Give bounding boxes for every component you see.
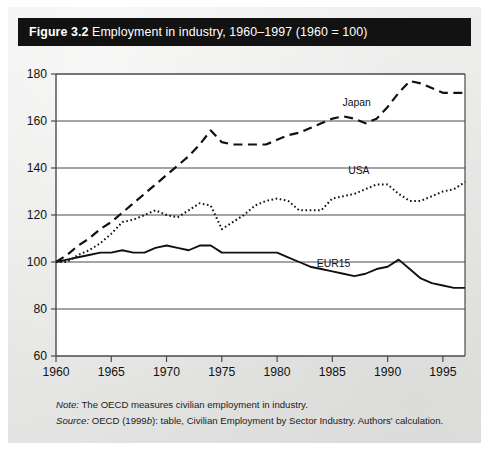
note-row: Note: The OECD measures civilian employm… <box>56 397 471 413</box>
chart-container: 6080100120140160180 19601965197019751980… <box>0 52 489 382</box>
figure-title-line: Figure 3.2 Employment in industry, 1960–… <box>18 25 368 39</box>
x-tick-label: 1970 <box>153 365 180 379</box>
source-text-post: ): table, Civilian Employment by Sector … <box>152 415 443 426</box>
x-tick-label: 1960 <box>42 365 69 379</box>
x-tick-label: 1965 <box>98 365 125 379</box>
series-label-eur15: EUR15 <box>317 258 351 269</box>
x-tick-label: 1995 <box>429 365 456 379</box>
y-tick-label: 100 <box>27 255 48 269</box>
y-tick-label: 60 <box>33 349 47 363</box>
figure-caption: Employment in industry, 1960–1997 (1960 … <box>92 25 367 39</box>
y-tick-label: 80 <box>33 302 47 316</box>
x-tick-label: 1975 <box>208 365 235 379</box>
page-margin-bottom <box>0 443 489 464</box>
y-tick-label: 180 <box>27 67 48 81</box>
figure-title-bar: Figure 3.2 Employment in industry, 1960–… <box>18 18 471 46</box>
figure-notes: Note: The OECD measures civilian employm… <box>56 397 471 429</box>
y-tick-label: 120 <box>27 208 48 222</box>
series-label-japan: Japan <box>343 97 372 108</box>
y-tick-label: 160 <box>27 114 48 128</box>
series-label-usa: USA <box>348 165 369 176</box>
notes-divider <box>18 388 471 389</box>
page-margin-right <box>481 0 489 464</box>
employment-line-chart: 6080100120140160180 19601965197019751980… <box>0 52 489 382</box>
note-text: The OECD measures civilian employment in… <box>81 399 307 410</box>
x-tick-label: 1980 <box>264 365 291 379</box>
figure-page: Figure 3.2 Employment in industry, 1960–… <box>0 0 489 464</box>
figure-number: Figure 3.2 <box>29 25 89 39</box>
x-tick-label: 1990 <box>374 365 401 379</box>
y-axis-ticks <box>51 74 56 356</box>
page-margin-left <box>0 0 8 464</box>
source-row: Source: OECD (1999b): table, Civilian Em… <box>56 413 471 429</box>
x-axis-ticks <box>56 356 443 362</box>
source-text-pre: OECD (1999 <box>92 415 147 426</box>
note-label: Note: <box>56 399 79 410</box>
x-axis-tick-labels: 19601965197019751980198519901995 <box>42 365 456 379</box>
x-tick-label: 1985 <box>319 365 346 379</box>
y-tick-label: 140 <box>27 161 48 175</box>
y-axis-tick-labels: 6080100120140160180 <box>27 67 48 363</box>
page-margin-top <box>0 0 489 7</box>
source-label: Source: <box>56 415 89 426</box>
